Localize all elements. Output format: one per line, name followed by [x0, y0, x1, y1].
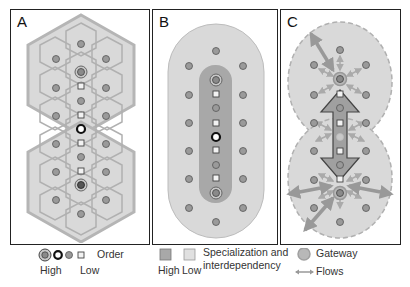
hexagonal-lattice-diagram	[11, 10, 148, 243]
gateway-label: Gateway	[316, 247, 357, 259]
flows-label: Flows	[316, 265, 343, 277]
legend-specialization: High Low Specialization and interdepende…	[158, 248, 288, 284]
faded-center-node	[337, 134, 344, 141]
specialization-low-label: Low	[182, 264, 201, 276]
panel-c: C	[280, 9, 401, 245]
flows-icon	[295, 270, 314, 275]
legend-order: Order High Low	[38, 248, 148, 284]
panel-b: B	[152, 9, 278, 245]
panel-a: A	[10, 9, 150, 245]
gateway-icon	[298, 248, 310, 260]
gateway-flows-diagram	[281, 10, 399, 243]
specialization-title-line1: Specialization and	[203, 246, 288, 258]
order-symbols-icon	[38, 248, 98, 262]
specialization-title-line2: interdependency	[203, 259, 281, 271]
order-low-label: Low	[80, 264, 99, 276]
legend-gateway-flows: Gateway Flows	[295, 248, 405, 284]
specialization-swatches-icon	[158, 248, 198, 262]
high-order-node	[212, 133, 220, 141]
order-high-label: High	[40, 264, 62, 276]
high-order-node	[77, 125, 85, 133]
order-title: Order	[97, 248, 124, 260]
specialization-high-label: High	[158, 264, 180, 276]
specialization-corridor-diagram	[153, 10, 276, 243]
